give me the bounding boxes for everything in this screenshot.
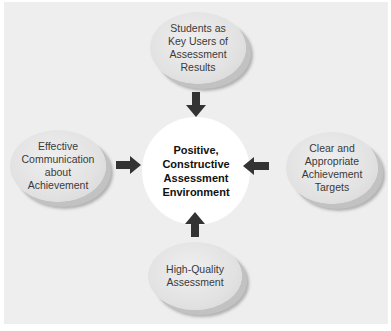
center-node-assessment-environment: Positive, Constructive Assessment Enviro…	[142, 117, 250, 225]
arrow-right-icon	[116, 156, 142, 174]
node-text-line: Appropriate	[302, 155, 363, 168]
node-text-line: Assessment	[166, 276, 224, 289]
node-clear-targets: Clear and Appropriate Achievement Target…	[286, 132, 378, 204]
arrow-up-icon	[185, 212, 205, 238]
node-text-line: Effective	[22, 140, 95, 153]
node-text-line: about	[22, 166, 95, 179]
node-text-line: High-Quality	[166, 263, 224, 276]
node-text-line: Targets	[302, 181, 363, 194]
node-text-line: Achievement	[302, 168, 363, 181]
node-students-key-users: Students as Key Users of Assessment Resu…	[150, 12, 246, 84]
node-text-line: Key Users of	[168, 35, 228, 48]
center-text-line: Constructive	[162, 157, 229, 171]
node-text-line: Assessment	[168, 48, 228, 61]
node-effective-communication: Effective Communication about Achievemen…	[10, 130, 106, 202]
node-text-line: Students as	[168, 22, 228, 35]
node-text-line: Achievement	[22, 179, 95, 192]
node-text-line: Clear and	[302, 142, 363, 155]
arrow-left-icon	[243, 157, 269, 175]
center-text-line: Environment	[162, 185, 229, 199]
center-text-line: Assessment	[162, 171, 229, 185]
node-high-quality-assessment: High-Quality Assessment	[148, 242, 242, 310]
node-text-line: Communication	[22, 153, 95, 166]
arrow-down-icon	[186, 92, 206, 118]
center-text-line: Positive,	[162, 143, 229, 157]
node-text-line: Results	[168, 61, 228, 74]
